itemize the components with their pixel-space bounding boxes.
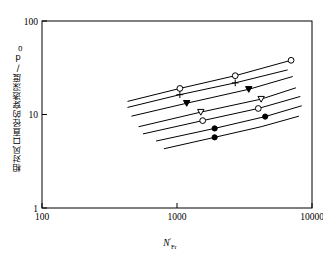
- series-line-4: [139, 88, 296, 127]
- series-line-6: [156, 106, 302, 141]
- series-line-2: [128, 70, 288, 108]
- y-axis-ticks: [42, 21, 47, 208]
- series-line-5: [143, 96, 300, 133]
- x-axis-title: N'Fr: [162, 236, 177, 250]
- series-7-marker-1-filled-circle: [212, 135, 217, 140]
- series-2-marker-1-plus: [176, 91, 183, 98]
- series-group-5: [143, 96, 300, 133]
- series-group-4: [139, 88, 296, 127]
- data-series-layer: [128, 57, 302, 148]
- x-tick-label-100: 100: [35, 212, 50, 222]
- series-line-7: [164, 116, 299, 149]
- series-line-1: [128, 60, 292, 101]
- y-axis-tick-labels: 100 10 1: [24, 17, 39, 214]
- series-5-marker-2-open-circle: [255, 106, 261, 112]
- x-axis-title-sub: Fr: [171, 243, 178, 250]
- x-axis-ticks: [42, 203, 312, 208]
- x-tick-label-1000: 1000: [168, 212, 187, 222]
- chart-figure: 相对风口直径的穿透深度/d0 100 10 1 100 1000 10000 N…: [0, 0, 323, 257]
- series-1-marker-2-open-circle: [232, 73, 238, 79]
- series-1-marker-1-open-circle: [177, 86, 183, 92]
- y-tick-label-100: 100: [24, 17, 39, 27]
- x-tick-label-10000: 10000: [300, 212, 323, 222]
- series-6-marker-2-filled-circle: [263, 114, 268, 119]
- y-tick-label-10: 10: [29, 110, 39, 120]
- series-6-marker-1-filled-circle: [212, 126, 217, 131]
- x-axis-title-text: N'Fr: [162, 236, 177, 250]
- series-1-marker-3-open-circle: [288, 57, 294, 63]
- series-group-6: [156, 106, 302, 141]
- chart-plot-svg: 100 10 1 100 1000 10000 N'Fr: [0, 0, 323, 257]
- x-axis-tick-labels: 100 1000 10000: [35, 212, 323, 222]
- series-group-1: [128, 57, 294, 101]
- series-group-7: [164, 116, 299, 149]
- series-2-marker-2-plus: [232, 79, 239, 86]
- series-group-2: [128, 70, 288, 108]
- series-5-marker-1-open-circle: [200, 118, 206, 124]
